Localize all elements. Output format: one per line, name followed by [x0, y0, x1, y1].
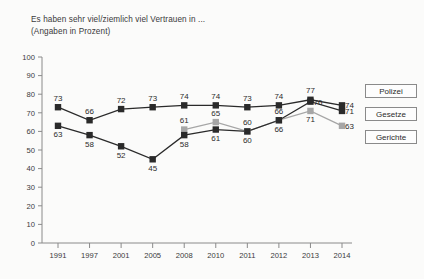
- svg-text:30: 30: [27, 183, 35, 192]
- svg-text:60: 60: [243, 136, 252, 145]
- svg-text:2008: 2008: [176, 251, 193, 260]
- svg-text:58: 58: [85, 140, 94, 149]
- svg-text:74: 74: [211, 92, 220, 101]
- svg-text:2012: 2012: [270, 251, 287, 260]
- svg-text:63: 63: [54, 130, 63, 139]
- svg-text:20: 20: [27, 202, 35, 211]
- line-chart-svg: 0102030405060708090100199119972001200520…: [0, 0, 424, 279]
- svg-text:58: 58: [180, 140, 189, 149]
- svg-text:73: 73: [243, 94, 252, 103]
- svg-text:66: 66: [85, 107, 94, 116]
- legend-label-gesetze: Gesetze: [376, 110, 406, 119]
- svg-text:0: 0: [31, 239, 35, 248]
- svg-text:76: 76: [313, 98, 322, 107]
- svg-text:73: 73: [54, 94, 63, 103]
- svg-text:2005: 2005: [144, 251, 161, 260]
- chart-root: Es haben sehr viel/ziemlich viel Vertrau…: [0, 0, 424, 279]
- svg-text:2010: 2010: [207, 251, 224, 260]
- svg-text:65: 65: [211, 109, 220, 118]
- svg-text:66: 66: [274, 107, 283, 116]
- svg-text:63: 63: [345, 122, 354, 131]
- legend-item-gerichte[interactable]: Gerichte: [365, 130, 417, 144]
- plot-area: 0102030405060708090100199119972001200520…: [0, 0, 424, 279]
- svg-text:74: 74: [180, 92, 189, 101]
- legend-label-gerichte: Gerichte: [376, 133, 406, 142]
- svg-text:90: 90: [27, 71, 35, 80]
- legend-item-gesetze[interactable]: Gesetze: [365, 107, 417, 121]
- svg-text:52: 52: [117, 151, 126, 160]
- svg-text:70: 70: [27, 109, 35, 118]
- svg-text:2014: 2014: [334, 251, 351, 260]
- svg-text:61: 61: [211, 134, 220, 143]
- svg-text:73: 73: [148, 94, 157, 103]
- svg-text:72: 72: [117, 96, 126, 105]
- svg-text:1991: 1991: [50, 251, 67, 260]
- svg-text:80: 80: [27, 90, 35, 99]
- svg-text:61: 61: [180, 116, 189, 125]
- svg-text:74: 74: [274, 92, 283, 101]
- svg-text:40: 40: [27, 164, 35, 173]
- svg-text:60: 60: [27, 127, 35, 136]
- legend-item-polizei[interactable]: Polizei: [365, 84, 417, 98]
- svg-text:71: 71: [306, 115, 315, 124]
- svg-text:100: 100: [22, 53, 35, 62]
- svg-text:77: 77: [306, 86, 315, 95]
- svg-text:2011: 2011: [239, 251, 255, 260]
- svg-text:1997: 1997: [81, 251, 98, 260]
- svg-text:2013: 2013: [302, 251, 319, 260]
- svg-text:71: 71: [345, 107, 354, 116]
- legend-label-polizei: Polizei: [379, 87, 403, 96]
- svg-text:50: 50: [27, 146, 35, 155]
- svg-text:2001: 2001: [113, 251, 130, 260]
- svg-text:60: 60: [243, 118, 252, 127]
- svg-text:66: 66: [274, 125, 283, 134]
- svg-text:45: 45: [148, 164, 157, 173]
- svg-text:10: 10: [27, 220, 35, 229]
